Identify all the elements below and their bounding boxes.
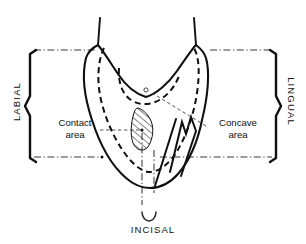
contact-area-label-line1: Contact [46, 117, 104, 129]
callout-contact-area: Contact area [46, 117, 104, 140]
concave-area-leader-line [152, 93, 206, 126]
callout-concave-area: Concave area [208, 117, 268, 140]
incisal-brace [142, 212, 156, 221]
concave-area-label-line2: area [208, 129, 268, 141]
label-labial: LABIAL [11, 72, 22, 132]
labial-brace [25, 50, 36, 162]
center-reference-circle-icon [144, 88, 148, 92]
label-incisal: INCISAL [103, 224, 203, 235]
tooth-proximal-stems [98, 18, 196, 45]
concave-area-label-line1: Concave [208, 117, 268, 129]
dental-diagram-figure: LABIAL LINGUAL Contact area Concave area… [0, 0, 306, 244]
contact-area-label-line2: area [46, 129, 104, 141]
label-lingual: LINGUAL [286, 72, 297, 132]
contact-area-dot-marker [141, 129, 144, 132]
lingual-brace [270, 50, 281, 162]
axis-intersection-dot [101, 156, 104, 159]
